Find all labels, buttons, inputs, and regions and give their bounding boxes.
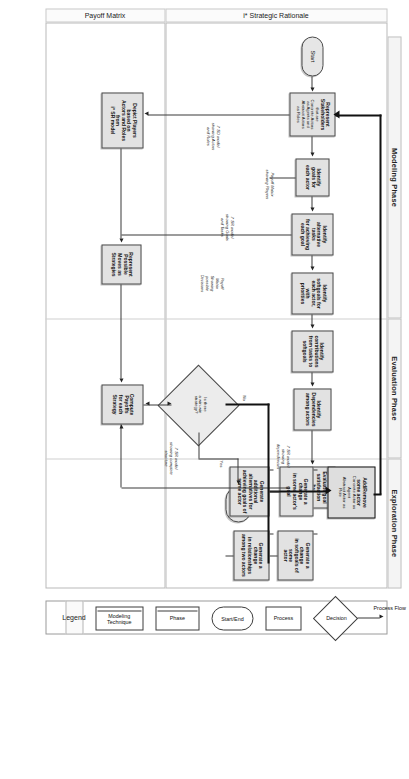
phase-header-modeling: Modeling Phase (387, 36, 401, 318)
edge-represent-to-players-arrow (144, 111, 148, 115)
node-generate-change-softgoals-line2: in softgoals of some (287, 533, 298, 577)
node-add-remove-actor[interactable]: Add/Remove some actor Concrete Actor as … (327, 466, 375, 518)
edge-decision-yes-h2 (237, 458, 238, 481)
node-represent-stakeholders[interactable]: Represent Stakeholders that are Concrete… (289, 92, 335, 136)
node-start-label: Start (309, 50, 315, 62)
feedback-stub-relationships (225, 555, 233, 556)
annotation-sr-dependencies: i* SR model showing dependencies (274, 432, 289, 480)
annotation-payoff-players: Payoff Matrix showing Players (263, 158, 273, 210)
edge-alternatives-to-moves-v (121, 234, 291, 235)
legend-flow-arrow-head (379, 614, 383, 618)
edge-players-to-moves (120, 148, 121, 238)
node-represent-moves[interactable]: Represent Possible Moves as Strategies (101, 244, 141, 284)
edge-moves-to-payoffs (120, 284, 121, 378)
edge-alternatives-to-softgoals-arrow (311, 266, 315, 270)
phase-header-exploration-label: Exploration Phase (390, 489, 399, 557)
node-depict-players-line3: i* SR model (108, 106, 114, 134)
node-represent-stakeholders-line7: as Roles (295, 106, 300, 122)
node-decision-win-win[interactable]: Is there a win-win strategy? (171, 376, 227, 432)
node-depict-players[interactable]: Depict Players based on Actors and Roles… (101, 92, 143, 148)
return-line-right (373, 493, 381, 495)
node-generate-alternatives[interactable]: Generate additional alternatives for ach… (229, 466, 269, 516)
legend-item-modeling-technique-label: Modeling Technique (107, 612, 132, 624)
node-generate-change-softgoals[interactable]: Generate a change in softgoals of some a… (277, 530, 313, 580)
legend-item-modeling-technique: Modeling Technique (95, 606, 143, 630)
edge-decision-no-riser (225, 403, 269, 405)
lane-header-payoff-matrix-label: Payoff Matrix (85, 12, 126, 19)
edge-contributions-to-dependencies (311, 372, 312, 383)
phase-divider-modeling-evaluation (45, 318, 387, 319)
annotation-sr-goals-tasks: i* SR model showing Goals and Tasks (218, 200, 233, 254)
legend-title-label: Legend (62, 613, 85, 620)
explore-loop-soft-v (313, 533, 317, 534)
node-identify-softgoals-line3: each actor, with (304, 275, 315, 311)
node-depict-players-line1: Depict Players based on (125, 95, 136, 145)
decision-win-win-text: Is there a win-win strategy? (171, 376, 227, 432)
edge-evaluate-to-payoffs-arrow (120, 424, 124, 428)
legend-decision-text: Decision (321, 602, 351, 632)
edge-decision-no-run (267, 403, 269, 563)
annotation-sr-complete: i* SR model showing complete structure (162, 430, 177, 486)
rotated-canvas-wrapper: Modeling Phase Evaluation Phase Explorat… (0, 0, 409, 779)
legend-item-process-label: Process (273, 615, 292, 621)
edge-payoffs-to-decision-arrow-tip (145, 401, 149, 405)
edge-players-to-moves-arrow (120, 238, 124, 242)
edge-label-yes: Yes (218, 460, 223, 467)
node-start[interactable]: Start (301, 36, 323, 76)
edge-payoffs-to-decision-arrow (167, 401, 171, 405)
node-identify-goals[interactable]: Identify goals for each actor (295, 158, 329, 196)
edge-dependencies-to-evaluate (311, 430, 312, 461)
feedback-stub-change-goal (269, 491, 279, 492)
legend-item-process: Process (265, 606, 301, 630)
edge-decision-yes (198, 432, 199, 458)
node-identify-alternatives-line2: alternative tasks (309, 216, 320, 252)
edge-label-no: No (241, 395, 246, 400)
node-generate-change-softgoals-line3: actor (281, 549, 287, 561)
decision-win-win-line3: strategy? (192, 395, 197, 413)
legend-item-start-end-label: Start/End (221, 615, 243, 621)
node-generate-change-relationships-line3: among two actors (240, 534, 246, 577)
node-identify-contributions-line4: softgoals (301, 340, 307, 362)
explore-loop-alt-v (269, 469, 273, 470)
node-generate-change-relationships-line1: Generate a change (251, 533, 262, 577)
flowchart-canvas: Modeling Phase Evaluation Phase Explorat… (0, 0, 409, 779)
edge-evaluate-to-payoffs-v (121, 487, 289, 488)
lane-header-strategic-rationale-label: i* Strategic Rationale (243, 12, 308, 19)
legend-title: Legend (65, 600, 83, 634)
node-identify-softgoals[interactable]: Identify softgoals for each actor, with … (291, 272, 333, 314)
node-identify-dependencies-line3: among actors (304, 393, 310, 426)
return-line-arrow (333, 110, 339, 118)
edge-represent-to-goals-arrow (311, 152, 315, 156)
legend-item-decision: Decision (321, 602, 351, 632)
annotation-payoff-decisions: Payoff Matrix Showing possible Decisions (198, 262, 223, 304)
node-compute-payoffs[interactable]: Compute Payoffs for each Strategy (101, 384, 143, 424)
edge-decision-yes-arrow (237, 480, 241, 484)
edge-evaluate-to-payoffs-h (120, 424, 121, 487)
node-compute-payoffs-line4: Strategy (111, 394, 117, 414)
feedback-stub-add-remove-arrow (325, 486, 331, 494)
node-generate-change-relationships[interactable]: Generate a change in relationships among… (233, 530, 269, 580)
node-identify-alternatives-line4: each goal (298, 222, 304, 245)
node-represent-moves-line4: Strategies (110, 252, 116, 276)
legend-item-start-end: Start/End (211, 606, 253, 630)
edge-dependencies-to-evaluate-arrow (311, 460, 315, 464)
node-identify-dependencies[interactable]: Identify Dependencies among actors (293, 388, 331, 430)
explore-loop-goal-v (313, 469, 317, 470)
edge-moves-to-payoffs-arrow (120, 378, 124, 382)
return-line-top (379, 114, 381, 494)
lane-header-payoff-matrix: Payoff Matrix (45, 8, 165, 22)
edge-goals-to-alternatives-arrow (311, 207, 315, 211)
edge-softgoals-to-contributions (311, 314, 312, 325)
edge-start-to-represent (311, 76, 312, 88)
legend-item-process-flow-label: Process Flow (373, 604, 405, 610)
explore-loop-rel-v (269, 533, 273, 534)
node-identify-goals-line3: each actor (304, 164, 310, 189)
node-identify-alternatives[interactable]: Identify alternative tasks for achieving… (291, 213, 333, 255)
phase-header-exploration: Exploration Phase (387, 458, 401, 588)
node-add-remove-actor-line6: Role (336, 488, 341, 497)
edge-decision-yes-v (198, 458, 238, 459)
phase-header-modeling-label: Modeling Phase (390, 147, 399, 206)
node-generate-change-softgoals-line1: Generate a change (298, 533, 309, 577)
legend-item-decision-label: Decision (326, 614, 347, 620)
node-identify-contributions[interactable]: Identify contributions from tasks to sof… (291, 330, 333, 372)
